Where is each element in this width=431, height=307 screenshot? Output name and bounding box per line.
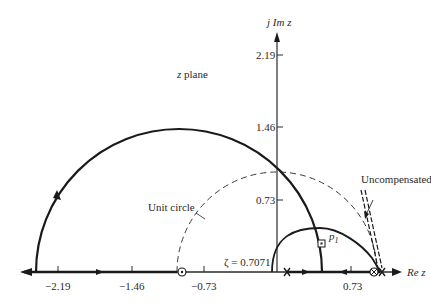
real-locus-arrow-icon bbox=[302, 269, 310, 275]
zeta-curve bbox=[272, 228, 380, 272]
imaginary-axis: 0.73 1.46 2.19 j Im z bbox=[256, 16, 292, 272]
zero-marker-icon bbox=[178, 268, 186, 276]
root-locus-diagram: −2.19 −1.46 −0.73 0.73 Re z 0.73 1.46 2.… bbox=[0, 0, 431, 307]
uncompensated-locus bbox=[365, 190, 382, 268]
x-tick-label: −1.46 bbox=[119, 280, 145, 292]
zero-marker-icon bbox=[370, 268, 378, 276]
plane-label: z plane bbox=[176, 68, 208, 80]
real-axis: −2.19 −1.46 −0.73 0.73 Re z bbox=[20, 266, 426, 292]
unit-circle-label: Unit circle bbox=[148, 201, 195, 213]
p1-marker-icon bbox=[318, 240, 325, 247]
real-locus-arrow-icon bbox=[96, 269, 104, 275]
x-tick-label: −2.19 bbox=[45, 280, 71, 292]
x-axis-label: Re z bbox=[406, 266, 426, 278]
y-axis-label: j Im z bbox=[265, 16, 292, 28]
y-tick-label: 1.46 bbox=[256, 121, 276, 133]
y-tick-label: 0.73 bbox=[256, 194, 276, 206]
zeta-label: ζ = 0.7071 bbox=[224, 256, 271, 269]
uncompensated-label: Uncompensated bbox=[361, 173, 431, 185]
x-tick-label: 0.73 bbox=[343, 280, 363, 292]
y-tick-label: 2.19 bbox=[256, 49, 276, 61]
real-axis-arrow-icon bbox=[392, 268, 402, 276]
x-tick-label: −0.73 bbox=[191, 280, 217, 292]
imag-axis-arrow-icon bbox=[274, 32, 280, 42]
unit-circle-leader bbox=[196, 213, 205, 219]
real-locus-arrow-icon bbox=[339, 269, 347, 275]
